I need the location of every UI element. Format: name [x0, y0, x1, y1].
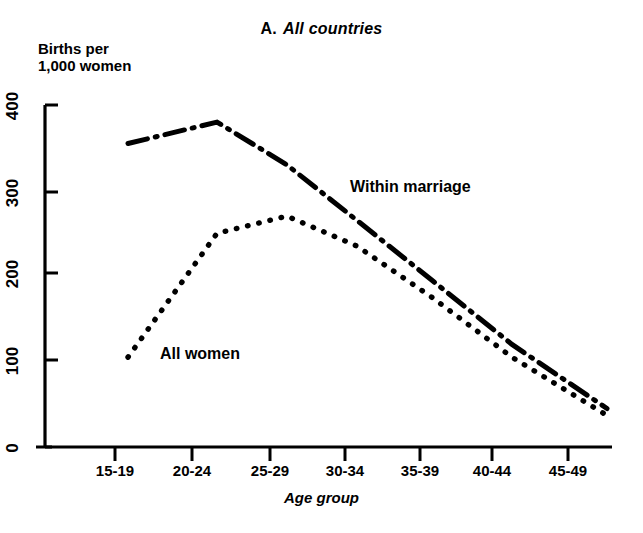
y-tick-label-0: 0 [3, 425, 23, 471]
x-tick-label-20-24: 20-24 [157, 462, 227, 479]
data-series-layer [128, 122, 607, 415]
y-tick-label-100: 100 [3, 338, 23, 384]
series-path-all-women [128, 216, 607, 415]
x-tick-label-15-19: 15-19 [80, 462, 150, 479]
y-axis-ticks [36, 105, 58, 447]
series-label-all-women: All women [160, 345, 240, 363]
series-path-within-marriage [128, 122, 607, 408]
x-tick-label-25-29: 25-29 [235, 462, 305, 479]
x-tick-label-35-39: 35-39 [385, 462, 455, 479]
x-tick-label-40-44: 40-44 [457, 462, 527, 479]
y-tick-label-200: 200 [3, 251, 23, 297]
x-tick-label-45-49: 45-49 [533, 462, 603, 479]
series-label-within-marriage: Within marriage [350, 178, 471, 196]
x-axis-ticks [115, 447, 568, 461]
y-tick-label-300: 300 [3, 170, 23, 216]
plot-area [0, 0, 643, 533]
x-axis-label: Age group [0, 489, 643, 506]
x-tick-label-30-34: 30-34 [310, 462, 380, 479]
chart-container: A.All countries Births per 1,000 women [0, 0, 643, 533]
y-tick-label-400: 400 [3, 83, 23, 129]
